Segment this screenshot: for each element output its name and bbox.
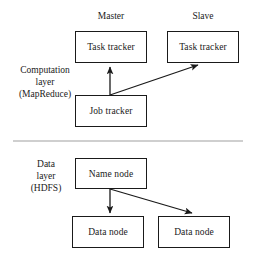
arrow-namenode-to-data-node-right [110, 189, 192, 213]
hadoop-architecture-diagram: Master Slave Computation layer (MapReduc… [0, 0, 254, 262]
arrow-jobtracker-to-slave-tasktracker [110, 65, 198, 95]
connector-layer [0, 0, 254, 262]
